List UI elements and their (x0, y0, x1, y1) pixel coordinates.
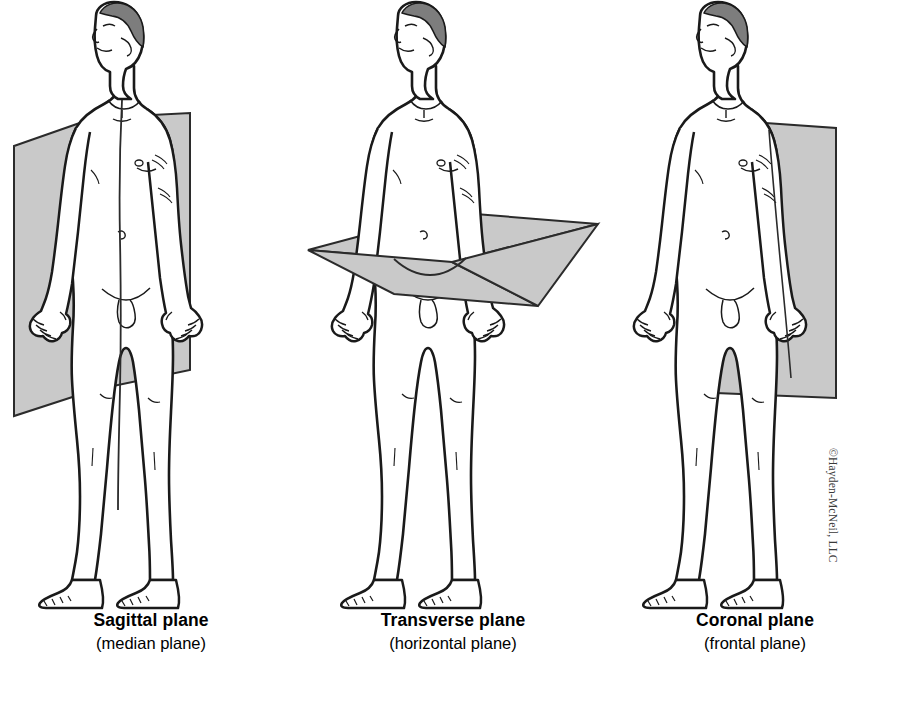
panel-coronal: Coronal plane (frontal plane) (604, 0, 906, 703)
caption-transverse-secondary: (horizontal plane) (302, 632, 604, 655)
caption-sagittal: Sagittal plane (median plane) (0, 608, 302, 655)
caption-sagittal-secondary: (median plane) (0, 632, 302, 655)
copyright-notice: ©Hayden-McNeil, LLC (827, 448, 839, 608)
human-body-figure (332, 2, 504, 608)
caption-transverse: Transverse plane (horizontal plane) (302, 608, 604, 655)
caption-coronal: Coronal plane (frontal plane) (604, 608, 906, 655)
human-body-figure (30, 2, 202, 608)
anatomical-planes-diagram: Sagittal plane (median plane) Transverse… (0, 0, 906, 703)
transverse-figure-graphic (302, 0, 604, 610)
human-body-figure (634, 2, 806, 608)
caption-transverse-primary: Transverse plane (302, 608, 604, 632)
panel-sagittal: Sagittal plane (median plane) (0, 0, 302, 703)
coronal-figure-graphic (604, 0, 906, 610)
caption-coronal-primary: Coronal plane (604, 608, 906, 632)
sagittal-figure-graphic (0, 0, 302, 610)
caption-coronal-secondary: (frontal plane) (604, 632, 906, 655)
caption-sagittal-primary: Sagittal plane (0, 608, 302, 632)
panel-transverse: Transverse plane (horizontal plane) (302, 0, 604, 703)
